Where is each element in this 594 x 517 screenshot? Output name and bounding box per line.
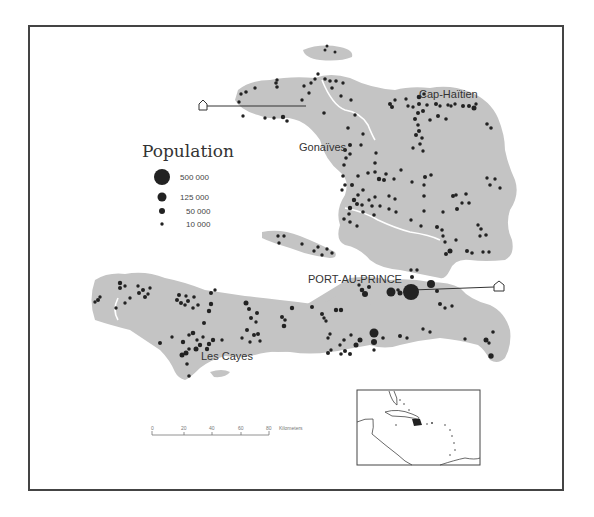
legend-label-50000: 50 000: [186, 207, 210, 216]
legend-symbol-50000: [159, 208, 165, 214]
tortuga-island: [303, 46, 352, 61]
city-label-les-cayes: Les Cayes: [201, 350, 253, 362]
legend-label-10000: 10 000: [186, 220, 210, 229]
house-icon-north: [199, 100, 207, 110]
legend-symbol-500000: [154, 169, 170, 185]
legend-label-125000: 125 000: [180, 193, 209, 202]
legend-label-500000: 500 000: [180, 173, 209, 182]
legend-symbol-125000: [158, 193, 167, 202]
ile-a-vache: [210, 370, 230, 377]
gonave-island: [262, 231, 336, 258]
haiti-map: [0, 0, 594, 517]
scale-tick-40: 40: [209, 425, 215, 431]
house-icon-south: [494, 281, 504, 291]
city-label-port-au-prince: PORT-AU-PRINCE: [308, 273, 402, 285]
legend-title: Population: [142, 141, 234, 161]
scale-tick-0: 0: [151, 425, 154, 431]
inset-caribbean-map: [357, 390, 480, 465]
haiti-southern-peninsula: [92, 273, 373, 380]
city-label-gonaives: Gonaïves: [299, 141, 346, 153]
scale-tick-60: 60: [238, 425, 244, 431]
scale-tick-20: 20: [181, 425, 187, 431]
legend-symbol-10000: [160, 222, 163, 225]
scale-tick-80: 80: [266, 425, 272, 431]
scale-unit: Kilometers: [279, 425, 303, 431]
city-label-cap-haitien: Cap-Haïtien: [419, 88, 478, 100]
legend-symbols: [154, 169, 170, 226]
scale-bar: [152, 431, 269, 435]
